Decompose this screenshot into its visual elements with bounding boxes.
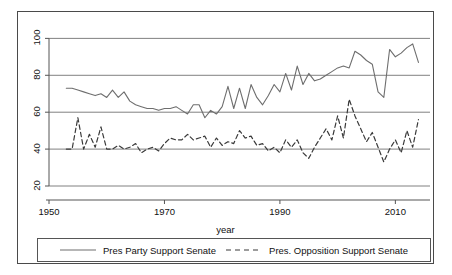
x-tick-label-2010: 2010 [378,206,412,217]
y-tick-label-100: 100 [31,25,42,51]
y-tick-label-20: 20 [31,173,42,199]
series-line-0 [66,44,418,118]
legend-label-pres-party: Pres Party Support Senate [103,245,216,256]
x-tick-label-1970: 1970 [147,206,181,217]
data-series-layer [66,44,418,162]
legend-line-dashed-icon [226,246,262,254]
y-tick-label-60: 60 [31,99,42,125]
x-axis-title: year [18,224,433,235]
legend-label-pres-opposition: Pres. Opposition Support Senate [269,245,408,256]
chart-legend: Pres Party Support Senate Pres. Oppositi… [37,238,431,262]
axis-lines [46,38,430,200]
legend-line-solid-icon [60,246,96,254]
x-tick-label-1950: 1950 [32,206,66,217]
y-tick-label-80: 80 [31,62,42,88]
x-tick-label-1990: 1990 [263,206,297,217]
gridlines [49,38,430,186]
y-tick-label-40: 40 [31,136,42,162]
legend-entry-pres-party: Pres Party Support Senate [60,245,216,256]
axis-ticks [45,38,395,204]
chart-figure-frame: 10080604020 1950197019902010 year Pres P… [17,11,434,264]
series-line-1 [66,99,418,162]
legend-entry-pres-opposition: Pres. Opposition Support Senate [226,245,408,256]
